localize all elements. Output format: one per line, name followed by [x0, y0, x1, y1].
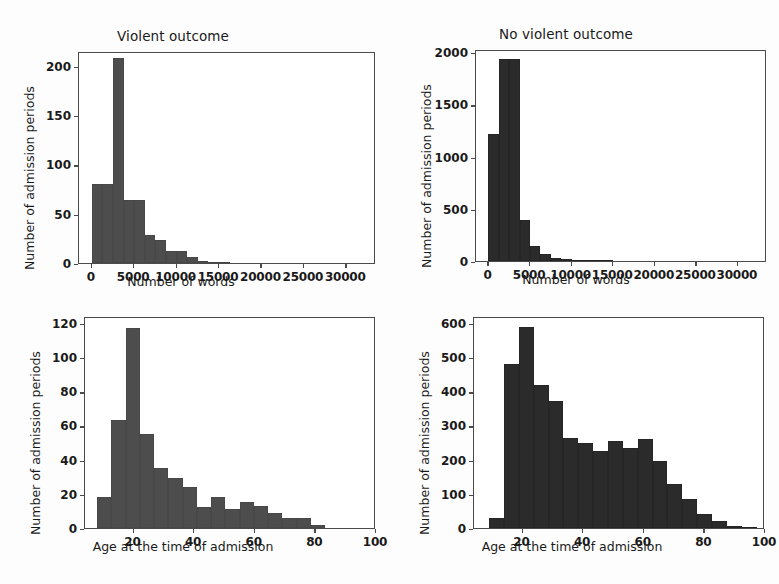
histogram-bar: [608, 441, 623, 528]
x-axis-tick: [133, 529, 134, 533]
y-axis-tick: [80, 392, 84, 393]
histogram-bar: [504, 364, 519, 528]
y-axis-tick-label: 600: [441, 317, 466, 331]
x-axis-tick: [643, 529, 644, 533]
histogram-bar: [572, 260, 582, 261]
y-axis-tick-label: 100: [46, 158, 71, 172]
histogram-bar: [549, 401, 564, 528]
y-axis-tick: [469, 529, 473, 530]
y-axis-tick-label: 2000: [435, 46, 468, 60]
y-axis-tick: [80, 426, 84, 427]
histogram-bar: [697, 514, 712, 528]
histogram-bar: [126, 328, 140, 528]
x-axis-tick-label: 40: [574, 535, 590, 549]
y-axis-caption-nonviolent-words: Number of admission periods: [419, 84, 434, 268]
histogram-bar: [102, 184, 113, 263]
x-axis-tick-label: 20: [513, 535, 529, 549]
x-axis-tick-label: 5000: [513, 268, 546, 282]
y-axis-tick-label: 150: [46, 109, 71, 123]
y-axis-tick: [74, 215, 78, 216]
y-axis-tick: [469, 392, 473, 393]
histogram-bar: [488, 134, 498, 261]
y-axis-tick-label: 120: [52, 317, 77, 331]
histogram-bar: [563, 438, 578, 528]
histogram-bar: [623, 448, 638, 528]
histogram-bar: [582, 260, 592, 261]
x-axis-tick-label: 15000: [198, 270, 239, 284]
y-axis-tick-label: 50: [54, 208, 71, 222]
y-axis-tick-label: 200: [441, 454, 466, 468]
x-axis-tick-label: 30000: [717, 268, 758, 282]
histogram-bar: [225, 509, 239, 528]
histogram-bar: [712, 521, 727, 528]
x-axis-tick: [571, 262, 572, 266]
x-axis-tick: [703, 529, 704, 533]
histogram-bar: [742, 527, 757, 528]
y-axis-tick: [74, 264, 78, 265]
histogram-bar: [219, 262, 230, 263]
panel-violent-age: Number of admission periods Age at the t…: [0, 307, 390, 584]
x-axis-tick-label: 20000: [240, 270, 281, 284]
plot-area-nonviolent-words: [475, 50, 766, 262]
y-axis-tick: [471, 158, 475, 159]
x-axis-tick: [345, 264, 346, 268]
histogram-bar: [268, 513, 282, 528]
y-axis-tick-label: 200: [46, 60, 71, 74]
histogram-bar: [183, 487, 197, 528]
plot-area-violent-age: [84, 317, 375, 529]
panel-violent-words: Violent outcome Number of admission peri…: [0, 22, 390, 294]
y-axis-tick-label: 80: [60, 385, 77, 399]
plot-area-violent-words: [78, 52, 375, 264]
y-axis-tick: [471, 262, 475, 263]
x-axis-tick: [133, 264, 134, 268]
x-axis-tick: [529, 262, 530, 266]
histogram-bar: [198, 261, 209, 263]
histogram-bar: [211, 497, 225, 528]
y-axis-tick-label: 500: [443, 203, 468, 217]
histogram-bar: [653, 461, 668, 528]
x-axis-tick-label: 60: [246, 535, 262, 549]
y-axis-tick-label: 60: [60, 419, 77, 433]
x-axis-tick-label: 25000: [282, 270, 323, 284]
panel-nonviolent-words: No violent outcome Number of admission p…: [389, 20, 779, 294]
x-axis-tick-label: 20: [124, 535, 140, 549]
y-axis-tick-label: 20: [60, 488, 77, 502]
y-axis-tick: [80, 495, 84, 496]
histogram-bar: [155, 240, 166, 263]
x-axis-tick: [612, 262, 613, 266]
x-axis-tick-label: 25000: [675, 268, 716, 282]
histogram-bar: [140, 434, 154, 528]
y-axis-tick-label: 40: [60, 454, 77, 468]
y-axis-tick-label: 100: [441, 488, 466, 502]
histogram-bar: [540, 254, 550, 261]
x-axis-tick-label: 20000: [633, 268, 674, 282]
x-axis-tick: [654, 262, 655, 266]
y-axis-tick: [471, 210, 475, 211]
y-axis-tick: [471, 53, 475, 54]
histogram-bar: [603, 260, 613, 261]
histogram-bar: [168, 478, 182, 528]
histogram-bar: [240, 502, 254, 528]
plot-area-nonviolent-age: [473, 317, 764, 529]
x-axis-tick: [254, 529, 255, 533]
histogram-bar: [254, 506, 268, 528]
histogram-bar: [519, 327, 534, 528]
y-axis-tick: [74, 116, 78, 117]
y-axis-tick: [469, 426, 473, 427]
y-axis-tick-label: 0: [63, 257, 71, 271]
histogram-bar: [534, 385, 549, 528]
histogram-bar: [667, 484, 682, 528]
y-axis-tick: [469, 461, 473, 462]
x-axis-tick-label: 0: [87, 270, 95, 284]
histogram-bar: [593, 451, 608, 528]
histogram-bar: [145, 235, 156, 263]
x-axis-tick: [375, 529, 376, 533]
x-axis-tick: [522, 529, 523, 533]
x-axis-tick: [218, 264, 219, 268]
histogram-bar: [727, 526, 742, 528]
histogram-bar: [311, 525, 325, 528]
histogram-bar: [113, 58, 124, 263]
x-axis-tick-label: 30000: [325, 270, 366, 284]
x-axis-tick: [695, 262, 696, 266]
y-axis-tick-label: 1000: [435, 151, 468, 165]
